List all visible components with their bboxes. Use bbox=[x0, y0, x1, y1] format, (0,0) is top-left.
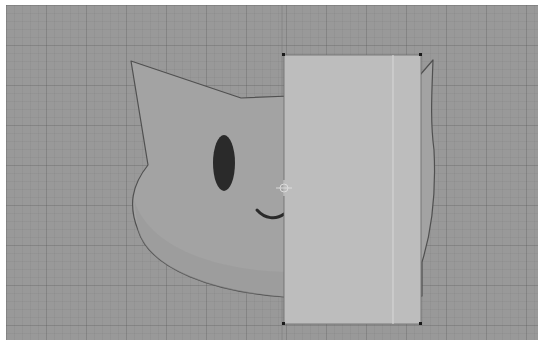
handle-bottom-right[interactable] bbox=[419, 322, 422, 325]
handle-top-left[interactable] bbox=[282, 53, 285, 56]
handle-bottom-left[interactable] bbox=[282, 322, 285, 325]
artwork-layer[interactable] bbox=[0, 0, 545, 355]
cat-eye[interactable] bbox=[213, 135, 235, 191]
handle-top-right[interactable] bbox=[419, 53, 422, 56]
selected-rectangle[interactable] bbox=[282, 53, 422, 325]
